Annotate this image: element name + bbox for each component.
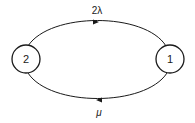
- edge-1-to-2: [28, 73, 167, 99]
- edge-2-to-1: [28, 21, 166, 47]
- state-diagram: 2 1 2λ μ: [0, 0, 195, 123]
- node-2: 2: [12, 45, 40, 73]
- node-2-label: 2: [23, 53, 29, 65]
- edge-label-top: 2λ: [92, 5, 103, 16]
- node-1-label: 1: [167, 53, 173, 65]
- node-1: 1: [156, 45, 184, 73]
- edge-label-bottom: μ: [95, 107, 102, 118]
